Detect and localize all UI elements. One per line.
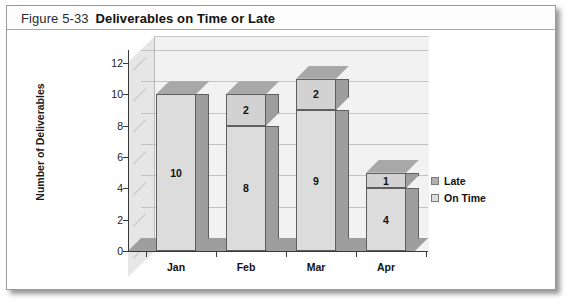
figure-title-inner: Figure 5-33Deliverables on Time or Late (21, 9, 275, 27)
gridline-side-10 (133, 88, 146, 101)
x-tick-1 (216, 252, 217, 257)
legend-item-on-time[interactable]: On Time (431, 188, 486, 205)
segment-ontime-apr-side (406, 188, 419, 251)
x-label-mar: Mar (286, 261, 346, 273)
gridline-side-6 (133, 151, 146, 164)
segment-ontime-jan-side (196, 94, 209, 251)
y-axis-line (128, 50, 129, 252)
segment-late-feb-value-label: 2 (226, 104, 266, 116)
y-tick-label-10: 10 (97, 88, 123, 100)
y-tick-label-12: 12 (97, 57, 123, 69)
segment-late-mar-side (336, 79, 349, 110)
legend-label: On Time (444, 192, 486, 204)
bar-top-cap-jan (156, 81, 209, 94)
gridline-side-12 (133, 57, 146, 70)
chart-legend: LateOn Time (431, 171, 486, 205)
y-axis-tick-labels: 024681012 (93, 31, 123, 289)
segment-late-apr-value-label: 1 (366, 175, 406, 187)
gridline-side-8 (133, 119, 146, 132)
segment-ontime-mar-side (336, 110, 349, 251)
y-tick-label-8: 8 (97, 120, 123, 132)
x-tick-2 (286, 252, 287, 257)
y-tick-label-0: 0 (97, 245, 123, 257)
plot-area: 10829241 (128, 31, 428, 289)
x-label-apr: Apr (356, 261, 416, 273)
segment-ontime-mar-value-label: 9 (296, 175, 336, 187)
segment-ontime-feb-side (266, 126, 279, 251)
bar-mar[interactable]: 92 (296, 31, 349, 289)
bar-jan[interactable]: 10 (156, 31, 209, 289)
x-label-jan: Jan (146, 261, 206, 273)
legend-item-late[interactable]: Late (431, 171, 486, 188)
bar-top-cap-feb (226, 81, 279, 94)
segment-late-mar-value-label: 2 (296, 88, 336, 100)
segment-ontime-feb-value-label: 8 (226, 182, 266, 194)
y-tick-label-4: 4 (97, 182, 123, 194)
x-tick-0 (146, 252, 147, 257)
segment-late-apr-side (406, 173, 419, 189)
y-axis-title: Number of Deliverables (34, 62, 46, 222)
figure-title: Deliverables on Time or Late (96, 11, 276, 26)
figure-title-bar: Figure 5-33Deliverables on Time or Late (7, 6, 555, 30)
legend-swatch-icon-on-time (431, 194, 439, 202)
chart-area: Number of Deliverables 024681012 1082924… (7, 31, 555, 289)
figure-number: Figure 5-33 (21, 11, 89, 26)
bar-apr[interactable]: 41 (366, 31, 419, 289)
segment-ontime-jan-value-label: 10 (156, 167, 196, 179)
figure-card: Figure 5-33Deliverables on Time or Late … (6, 5, 556, 290)
bar-top-cap-apr (366, 160, 419, 173)
segment-ontime-apr-value-label: 4 (366, 214, 406, 226)
bar-top-cap-mar (296, 66, 349, 79)
segment-late-feb-side (266, 94, 279, 125)
legend-swatch-icon-late (431, 177, 439, 185)
x-label-feb: Feb (216, 261, 276, 273)
x-tick-end (426, 252, 427, 257)
legend-label: Late (444, 175, 466, 187)
bar-feb[interactable]: 82 (226, 31, 279, 289)
y-tick-label-2: 2 (97, 214, 123, 226)
gridline-side-2 (133, 213, 146, 226)
y-tick-label-6: 6 (97, 151, 123, 163)
x-tick-3 (356, 252, 357, 257)
gridline-side-4 (133, 182, 146, 195)
